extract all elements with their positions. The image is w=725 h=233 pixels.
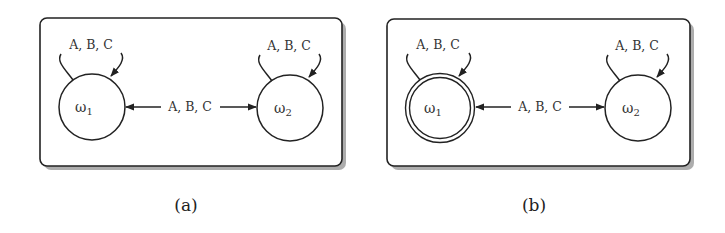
edge-label: A, B, C <box>167 99 212 114</box>
caption-b: (b) <box>522 195 546 215</box>
edge-label: A, B, C <box>517 99 562 114</box>
caption-a: (a) <box>174 195 197 215</box>
self-loop-label: A, B, C <box>266 38 311 53</box>
panel-b: ω1 A, B, C ω2 A, B, C A, B, C <box>387 19 694 170</box>
panel-a: ω1 A, B, C ω2 A, B, C A, B, C <box>40 18 346 170</box>
self-loop-label: A, B, C <box>415 37 460 52</box>
self-loop-label: A, B, C <box>68 37 113 52</box>
kripke-diagram-figure: ω1 A, B, C ω2 A, B, C A, B, C (a) ω1 <box>0 0 725 233</box>
self-loop-label: A, B, C <box>614 38 659 53</box>
